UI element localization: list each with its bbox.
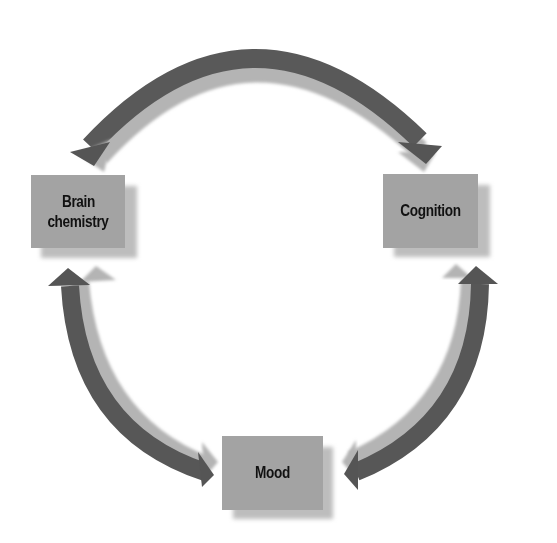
top-bidirectional-arrow — [70, 58, 442, 172]
node-label-text: Cognition — [400, 201, 460, 221]
node-label-line1: Brain — [61, 192, 94, 212]
node-label: Brain chemistry — [31, 175, 125, 248]
diagram-canvas: Brain chemistry Cognition Mood — [0, 0, 557, 543]
node-label: Mood — [222, 436, 323, 510]
right-bidirectional-arrow — [342, 264, 498, 490]
node-label-line2: chemistry — [47, 212, 108, 232]
node-label: Cognition — [383, 174, 478, 248]
left-bidirectional-arrow — [48, 266, 218, 487]
node-label-text: Mood — [255, 463, 290, 483]
